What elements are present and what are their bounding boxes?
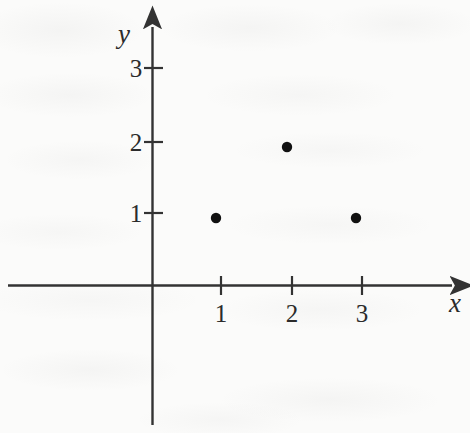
- x-tick-label-3: 3: [356, 300, 369, 327]
- x-axis-label: x: [448, 288, 461, 318]
- scanned-figure-page: 1 2 3 1 2 3 y x: [0, 0, 470, 433]
- data-point-1-1: [211, 213, 221, 223]
- data-point-2-2: [282, 142, 292, 152]
- y-tick-label-1: 1: [130, 200, 143, 227]
- y-tick-label-3: 3: [130, 55, 143, 82]
- coordinate-plane-plot: 1 2 3 1 2 3 y x: [0, 0, 470, 433]
- x-tick-label-1: 1: [215, 300, 228, 327]
- y-axis-label: y: [115, 19, 130, 49]
- y-tick-label-2: 2: [130, 129, 143, 156]
- data-point-3-1: [351, 213, 361, 223]
- x-tick-label-2: 2: [286, 300, 299, 327]
